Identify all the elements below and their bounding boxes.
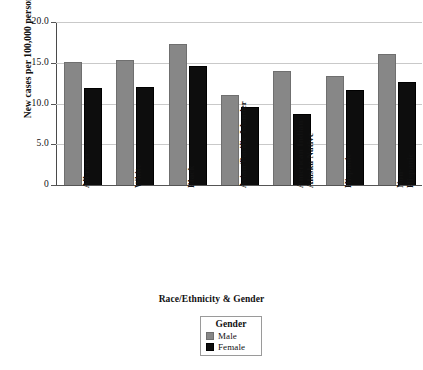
y-tick-label-15: 15.0 (32, 58, 49, 68)
legend-item-male: Male (206, 331, 256, 341)
x-label-2: Black (187, 165, 197, 188)
x-label-3: Asian/Pacific Islander (239, 101, 249, 188)
legend-label-female: Female (218, 342, 245, 352)
y-tick-label-0: 0 (44, 180, 49, 190)
legend-title: Gender (206, 319, 256, 329)
y-tick-5 (51, 144, 56, 145)
legend-item-female: Female (206, 342, 256, 352)
x-label-5: Hispanic (344, 153, 354, 188)
bar-chart-figure: New cases per 100,000 persons 05.010.015… (0, 0, 423, 370)
y-tick-10 (51, 104, 56, 105)
x-label-1: White (134, 164, 144, 188)
bar-male (221, 95, 239, 185)
plot-area: 05.010.015.020.0 (56, 22, 391, 185)
legend-swatch-female (206, 343, 214, 351)
x-axis-category-labels: All racesWhiteBlackAsian/Pacific Islande… (56, 188, 391, 288)
bar-male (378, 54, 396, 185)
bar-male (116, 60, 134, 186)
y-tick-15 (51, 63, 56, 64)
x-label-0: All races (82, 153, 92, 188)
bar-series-layer (57, 22, 391, 185)
y-tick-0 (51, 185, 56, 186)
bar-male (273, 71, 291, 185)
bar-male (64, 62, 82, 185)
x-axis-title: Race/Ethnicity & Gender (0, 294, 423, 304)
legend: Gender Male Female (200, 316, 262, 356)
legend-swatch-male (206, 332, 214, 340)
bar-male (169, 44, 187, 185)
y-tick-label-10: 10.0 (32, 99, 49, 109)
x-label-6: Non-Hispanic (396, 153, 415, 188)
bar-group (109, 22, 161, 185)
bar-male (326, 76, 344, 185)
y-tick-label-20: 20.0 (32, 17, 49, 27)
x-label-4: American Indian/ Alaska Native (296, 118, 315, 188)
bar-group (162, 22, 214, 185)
legend-label-male: Male (218, 331, 237, 341)
y-tick-20 (51, 22, 56, 23)
y-tick-label-5: 5.0 (37, 140, 49, 150)
